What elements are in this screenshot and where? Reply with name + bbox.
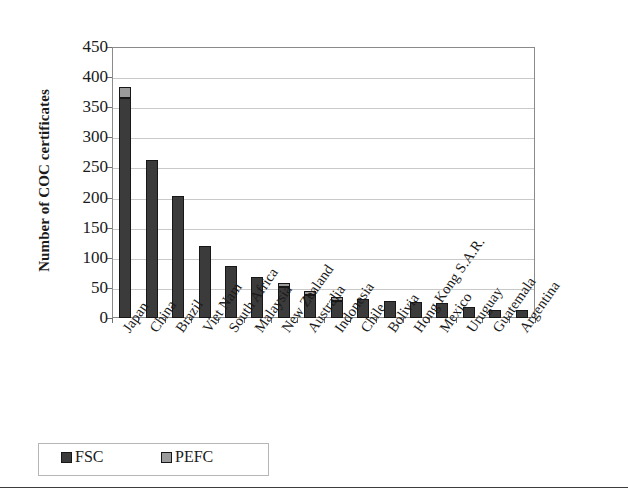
bar-group — [146, 160, 158, 318]
bar-segment-fsc — [172, 196, 184, 318]
y-tick-label: 200 — [52, 189, 108, 206]
y-axis-title: Number of COC certificates — [36, 41, 53, 321]
legend-item-pefc: PEFC — [161, 449, 213, 465]
legend-label-fsc: FSC — [75, 449, 103, 465]
y-tick-label: 150 — [52, 219, 108, 236]
legend: FSC PEFC — [38, 443, 269, 476]
y-tick-label: 50 — [52, 279, 108, 296]
bar-segment-pefc — [119, 87, 131, 98]
legend-label-pefc: PEFC — [175, 449, 213, 465]
y-tick-label: 0 — [52, 309, 108, 326]
bar-group — [172, 196, 184, 318]
y-tick-label: 350 — [52, 98, 108, 115]
bottom-divider — [0, 487, 628, 488]
y-tick-label: 450 — [52, 38, 108, 55]
bar-group — [119, 87, 131, 318]
bar-segment-fsc — [146, 160, 158, 318]
y-tick-label: 250 — [52, 158, 108, 175]
y-tick-label: 100 — [52, 249, 108, 266]
x-tick-mark — [112, 318, 113, 323]
legend-item-fsc: FSC — [61, 449, 103, 465]
legend-swatch-pefc — [161, 452, 172, 463]
bar-segment-fsc — [119, 98, 131, 318]
legend-swatch-fsc — [61, 452, 72, 463]
chart-figure: Number of COC certificates 0501001502002… — [0, 0, 628, 501]
y-tick-label: 300 — [52, 128, 108, 145]
y-tick-label: 400 — [52, 68, 108, 85]
